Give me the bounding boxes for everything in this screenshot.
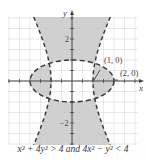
region-plot: y x 2−2 (1, 0)(2, 0) <box>0 0 146 160</box>
point-annotation: (1, 0) <box>104 55 123 65</box>
y-axis-label: y <box>62 8 67 18</box>
point-annotation: (2, 0) <box>120 68 139 78</box>
y-tick-label: 2 <box>65 35 69 44</box>
x-axis-label: x <box>138 83 143 93</box>
y-tick-label: −2 <box>60 119 69 128</box>
chart-caption: x² + 4y² > 4 and 4x² − y² < 4 <box>0 144 146 154</box>
